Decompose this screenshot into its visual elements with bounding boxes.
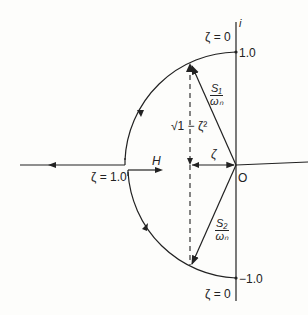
origin-label: O xyxy=(238,172,247,184)
value-plus-one: 1.0 xyxy=(239,47,256,59)
zeta-segment-label: ζ xyxy=(211,148,217,160)
root-locus-diagram: i ζ = 0 1.0 S₁ ωₙ √1 − ζ² ζ H ζ = 1.0 O … xyxy=(0,0,308,315)
real-axis xyxy=(236,162,308,165)
zeta-zero-bottom-label: ζ = 0 xyxy=(205,288,231,300)
zeta-zero-top-label: ζ = 0 xyxy=(205,31,231,43)
s1-over-omega-label: S₁ ωₙ xyxy=(210,83,223,107)
imaginary-axis-label: i xyxy=(239,18,241,29)
zeta-one-label: ζ = 1.0 xyxy=(91,171,127,183)
h-label: H xyxy=(152,155,161,167)
value-minus-one: −1.0 xyxy=(239,273,263,285)
s2-over-omega-label: S₂ ωₙ xyxy=(215,218,229,242)
sqrt-one-minus-zeta-sq-label: √1 − ζ² xyxy=(171,120,207,132)
